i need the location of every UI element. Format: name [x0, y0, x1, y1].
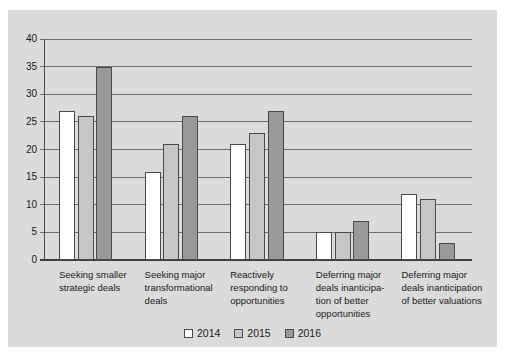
- legend: 201420152016: [8, 327, 497, 339]
- legend-swatch-2014: [184, 329, 193, 338]
- y-tick-label-30: 30: [8, 89, 37, 99]
- x-category-label-line: Deferring major: [401, 268, 482, 281]
- bar-2015-category-1: [78, 116, 94, 260]
- x-category-label-line: opportunities: [230, 294, 288, 307]
- y-tick-label-5: 5: [8, 227, 37, 237]
- bar-2016-category-5: [439, 243, 455, 260]
- x-category-label-line: responding to: [230, 281, 288, 294]
- legend-label-2016: 2016: [298, 327, 321, 339]
- y-tick-label-40: 40: [8, 34, 37, 44]
- plot-area: [44, 39, 472, 260]
- x-category-label-line: opportunities: [316, 307, 385, 320]
- bar-2014-category-2: [145, 172, 161, 260]
- legend-item-2016: 2016: [285, 327, 321, 339]
- bar-2016-category-3: [268, 111, 284, 260]
- gridline-40: [40, 39, 472, 40]
- x-category-label-3: Reactivelyresponding toopportunities: [230, 268, 288, 307]
- legend-swatch-2016: [285, 329, 294, 338]
- bar-2015-category-2: [163, 144, 179, 260]
- x-category-label-line: deals inanticipation: [401, 281, 482, 294]
- x-category-label-line: Seeking smaller: [59, 268, 127, 281]
- bar-2016-category-4: [353, 221, 369, 260]
- y-tick-label-0: 0: [8, 255, 37, 265]
- legend-item-2015: 2015: [234, 327, 270, 339]
- bar-2015-category-5: [420, 199, 436, 260]
- y-tick-label-25: 25: [8, 117, 37, 127]
- x-category-label-1: Seeking smallerstrategic deals: [59, 268, 127, 294]
- bar-2016-category-2: [182, 116, 198, 260]
- y-tick-label-10: 10: [8, 200, 37, 210]
- legend-swatch-2015: [234, 329, 243, 338]
- bar-2014-category-4: [316, 232, 332, 260]
- bar-2014-category-1: [59, 111, 75, 260]
- x-category-label-line: deals: [145, 294, 213, 307]
- y-tick-label-15: 15: [8, 172, 37, 182]
- x-category-label-line: Seeking major: [145, 268, 213, 281]
- bar-2014-category-5: [401, 194, 417, 260]
- x-category-label-4: Deferring majordeals inanticipa-tion of …: [316, 268, 385, 320]
- chart-page: 0510152025303540 Seeking smallerstrategi…: [0, 0, 510, 363]
- legend-label-2015: 2015: [247, 327, 270, 339]
- x-category-label-line: Reactively: [230, 268, 288, 281]
- x-category-label-line: Deferring major: [316, 268, 385, 281]
- y-tick-label-35: 35: [8, 62, 37, 72]
- x-category-label-line: tion of better: [316, 294, 385, 307]
- x-category-label-line: strategic deals: [59, 281, 127, 294]
- bar-2015-category-3: [249, 133, 265, 260]
- x-category-label-line: of better valuations: [401, 294, 482, 307]
- y-axis-line: [44, 39, 45, 260]
- bar-2014-category-3: [230, 144, 246, 260]
- x-category-label-line: transformational: [145, 281, 213, 294]
- bar-2015-category-4: [335, 232, 351, 260]
- x-category-label-line: deals inanticipa-: [316, 281, 385, 294]
- bar-2016-category-1: [96, 67, 112, 260]
- legend-item-2014: 2014: [184, 327, 220, 339]
- y-tick-label-20: 20: [8, 145, 37, 155]
- legend-label-2014: 2014: [197, 327, 220, 339]
- x-category-label-2: Seeking majortransformationaldeals: [145, 268, 213, 307]
- x-category-label-5: Deferring majordeals inanticipationof be…: [401, 268, 482, 307]
- chart-canvas: 0510152025303540 Seeking smallerstrategi…: [8, 10, 497, 347]
